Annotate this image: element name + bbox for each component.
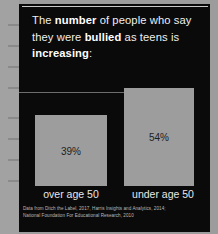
headline-text-5: teens is (140, 31, 179, 43)
source-line-2: National Foundation For Educational Rese… (23, 212, 205, 219)
top-divider (22, 6, 208, 7)
headline-text-1: The (32, 14, 55, 26)
headline-text-6: : (89, 47, 92, 59)
source-line-1: Data from Ditch the Label, 2017, Harris … (23, 205, 205, 212)
headline-emphasis-number: number (55, 14, 97, 26)
bar-over-age-50: 39% (35, 115, 107, 186)
axis-tick (8, 159, 19, 161)
infographic-poster: The number of people who say they were b… (0, 0, 218, 234)
bar-under-age-50: 54% (124, 88, 194, 186)
source-citation: Data from Ditch the Label, 2017, Harris … (23, 205, 205, 219)
category-labels: over age 50 under age 50 (19, 188, 210, 204)
bar-value-label-under: 54% (124, 132, 194, 143)
axis-tick (8, 66, 19, 68)
headline: The number of people who say they were b… (32, 12, 204, 62)
axis-tick (8, 180, 19, 182)
bar-chart: 39% 54% (19, 88, 210, 186)
category-label-under-age-50: under age 50 (117, 188, 209, 200)
headline-emphasis-bullied: bullied (85, 31, 122, 43)
headline-emphasis-increasing: increasing (32, 47, 89, 59)
axis-tick (8, 117, 19, 119)
headline-text-4: as (121, 31, 136, 43)
axis-tick (8, 138, 19, 140)
bar-value-label-over: 39% (35, 145, 107, 156)
axis-tick (8, 87, 19, 89)
axis-tick (8, 24, 19, 26)
category-label-over-age-50: over age 50 (25, 188, 117, 200)
axis-tick (8, 45, 19, 47)
headline-text-2: of people who (96, 14, 170, 26)
left-axis-strip (0, 0, 19, 234)
